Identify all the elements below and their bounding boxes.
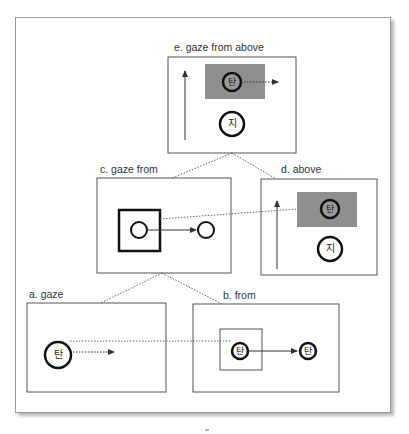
panel-a-label: a. gaze [29,288,63,300]
panel-d-label: d. above [281,163,321,175]
panel-a-target-glyph: 탄 [54,350,63,360]
panel-b-box [193,304,339,392]
connector-e-d [232,153,276,179]
diagram-canvas [0,0,409,434]
panel-d-ground-glyph: 지 [326,244,335,254]
connector-e-c [172,153,232,178]
panel-e-target-glyph: 탄 [228,78,236,87]
panel-a [27,303,166,392]
panel-c-box [97,178,231,273]
panel-d [261,179,377,275]
panel-d-target-glyph: 탄 [326,205,334,214]
panel-e [168,57,296,153]
link-c-d [160,209,297,219]
page-footer-mark [205,429,209,431]
connector-c-a [101,273,162,303]
panel-c-label: c. gaze from [100,163,158,175]
panel-b [193,304,339,392]
panel-b-target-glyph: 탄 [304,347,312,356]
panel-e-label: e. gaze from above [174,41,264,53]
panel-c [97,178,231,273]
panel-e-ground-glyph: 지 [228,119,237,129]
panel-b-label: b. from [223,289,256,301]
target-circle [198,222,214,238]
panel-b-source-glyph: 탄 [236,347,244,356]
hierarchy-connectors [101,153,276,304]
source-circle [131,222,147,238]
connector-c-b [162,273,222,304]
